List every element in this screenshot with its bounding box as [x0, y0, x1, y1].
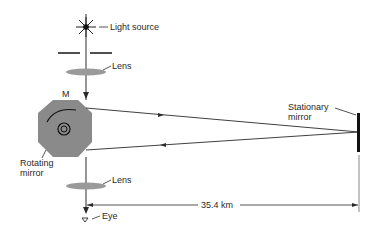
- diagram-canvas: Light source Lens M Rotating mirror Stat…: [0, 0, 379, 239]
- dimension-arrow-icon: [87, 203, 93, 207]
- mirror-letter-label: M: [62, 89, 70, 99]
- down-arrow-icon: [83, 207, 89, 214]
- left-arrow-icon: [160, 143, 166, 147]
- leader-line: [92, 216, 100, 219]
- top-lens-icon: [66, 69, 106, 76]
- eye-icon: [82, 218, 88, 222]
- rotating-mirror-label-line1: Rotating: [20, 158, 54, 168]
- dimension-arrow-icon: [352, 203, 358, 207]
- down-arrow-icon: [83, 92, 89, 99]
- leader-line: [42, 150, 46, 158]
- bottom-lens-icon: [66, 183, 106, 190]
- leader-line: [335, 108, 356, 115]
- rotating-mirror-icon: [38, 100, 92, 157]
- light-source-label: Light source: [110, 22, 159, 32]
- top-lens-label: Lens: [112, 61, 132, 71]
- stationary-mirror-icon: [357, 113, 360, 152]
- rotating-mirror-label-line2: mirror: [20, 168, 44, 178]
- leader-line: [103, 180, 111, 184]
- right-arrow-icon: [158, 113, 164, 117]
- bottom-lens-label: Lens: [112, 175, 132, 185]
- stationary-mirror-label-line2: mirror: [288, 112, 312, 122]
- light-source-icon: [76, 17, 96, 37]
- distance-label: 35.4 km: [201, 200, 233, 210]
- stationary-mirror-label-line1: Stationary: [288, 102, 329, 112]
- reflected-beam: [86, 132, 359, 150]
- leader-line: [103, 66, 111, 70]
- eye-label: Eye: [102, 211, 118, 221]
